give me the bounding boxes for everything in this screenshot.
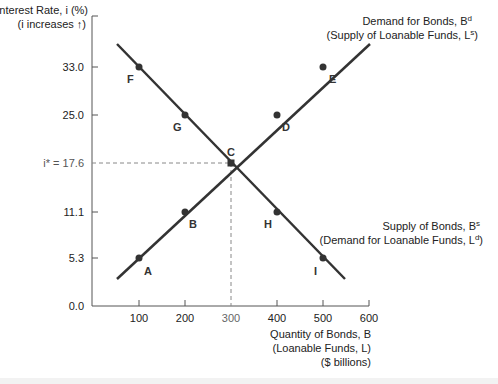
x-axis-title-line2: (Loanable Funds, L) [273, 342, 371, 354]
x-tick-100: 100 [130, 312, 148, 324]
point-h [274, 209, 281, 216]
x-axis-title-line3: ($ billions) [321, 356, 371, 368]
point-b [182, 209, 189, 216]
label-d: D [282, 121, 290, 133]
x-tick-300: 300 [222, 312, 240, 324]
x-ticks: 100 200 300 400 500 600 [130, 300, 378, 324]
y-tick-equilibrium: i* = 17.6 [43, 157, 84, 169]
x-axis-title-line1: Quantity of Bonds, B [270, 328, 371, 340]
point-d [274, 112, 281, 119]
supply-label-line1: Supply of Bonds, Bs [382, 219, 480, 232]
y-tick-33: 33.0 [63, 61, 84, 73]
x-tick-400: 400 [268, 312, 286, 324]
label-i: I [314, 265, 317, 277]
demand-label-line1: Demand for Bonds, Bd [362, 14, 472, 27]
point-f [136, 64, 143, 71]
point-a [136, 255, 143, 262]
point-g [182, 112, 189, 119]
point-c [228, 160, 235, 167]
x-tick-500: 500 [314, 312, 332, 324]
y-axis-title-line1: Interest Rate, i (%) [0, 4, 88, 16]
label-f: F [127, 73, 134, 85]
label-e: E [329, 73, 336, 85]
x-tick-600: 600 [360, 312, 378, 324]
y-tick-0: 0.0 [69, 300, 84, 312]
label-a: A [144, 265, 152, 277]
y-tick-25: 25.0 [63, 109, 84, 121]
label-g: G [173, 121, 182, 133]
label-h: H [264, 218, 272, 230]
point-e [320, 64, 327, 71]
label-c: C [227, 146, 235, 158]
x-tick-200: 200 [176, 312, 194, 324]
bottom-strip [0, 378, 498, 384]
y-axis-title-line2: (i increases ↑) [18, 18, 86, 30]
demand-label-line2: (Supply of Loanable Funds, Ls) [327, 28, 478, 41]
y-ticks: 33.0 25.0 i* = 17.6 11.1 5.3 0.0 [43, 61, 98, 312]
point-i [320, 255, 327, 262]
y-tick-11: 11.1 [63, 206, 84, 218]
bond-market-chart: 33.0 25.0 i* = 17.6 11.1 5.3 0.0 100 200… [0, 0, 498, 384]
y-tick-5: 5.3 [69, 252, 84, 264]
supply-label-line2: (Demand for Loanable Funds, Ld) [320, 233, 483, 246]
label-b: B [189, 218, 197, 230]
